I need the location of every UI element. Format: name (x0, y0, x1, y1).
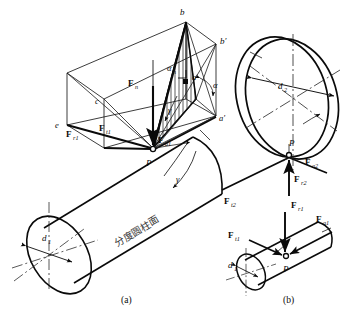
svg-text:2: 2 (284, 86, 287, 93)
point-P-lower-marker (284, 254, 289, 259)
svg-text:F: F (294, 174, 300, 184)
svg-text:d: d (278, 81, 283, 91)
svg-text:F: F (316, 214, 322, 224)
label-point-e: e (55, 120, 59, 130)
label-point-c: c (95, 96, 99, 106)
label-point-b-prime: b′ (220, 36, 228, 46)
background (0, 0, 352, 314)
caption-a: (a) (121, 295, 132, 306)
svg-text:1: 1 (48, 238, 51, 245)
svg-text:F: F (291, 200, 297, 210)
label-point-a-prime: a′ (219, 113, 225, 123)
right-angle-marker (183, 79, 188, 84)
caption-b: (b) (283, 295, 294, 306)
svg-text:1: 1 (234, 265, 237, 272)
svg-text:t2: t2 (231, 201, 236, 208)
label-point-b: b (180, 7, 185, 17)
svg-text:n: n (173, 69, 176, 75)
technical-drawing: b b′ a a′ c e P α n α γ γ F n F t1 F r1 … (0, 0, 352, 314)
svg-text:F: F (158, 135, 164, 145)
label-alpha: α (213, 80, 218, 90)
svg-text:n: n (135, 83, 138, 90)
force-vector-Fr1-b (104, 148, 151, 149)
svg-text:F: F (66, 129, 72, 139)
svg-text:F: F (228, 230, 234, 240)
label-point-P-upper: P (288, 138, 295, 148)
svg-text:r1: r1 (73, 134, 79, 141)
svg-text:a1: a1 (165, 140, 171, 147)
svg-text:a2: a2 (312, 162, 318, 169)
svg-text:d: d (42, 233, 47, 243)
svg-text:F: F (99, 123, 105, 133)
svg-text:F: F (305, 157, 311, 167)
svg-text:F: F (128, 78, 134, 88)
svg-text:t1: t1 (235, 235, 240, 242)
svg-text:r1: r1 (298, 205, 304, 212)
point-P-marker (150, 146, 155, 151)
svg-text:t1: t1 (106, 128, 111, 135)
point-P-upper-marker (287, 153, 292, 158)
label-point-P-a: P (145, 158, 152, 168)
label-point-a: a (192, 72, 196, 82)
svg-text:F: F (224, 196, 230, 206)
svg-text:a1: a1 (323, 219, 329, 226)
svg-text:r2: r2 (301, 179, 307, 186)
figure-canvas: b b′ a a′ c e P α n α γ γ F n F t1 F r1 … (0, 0, 352, 314)
svg-text:α: α (167, 63, 172, 73)
label-point-P-lower: P (282, 264, 289, 274)
svg-text:d: d (228, 260, 233, 270)
